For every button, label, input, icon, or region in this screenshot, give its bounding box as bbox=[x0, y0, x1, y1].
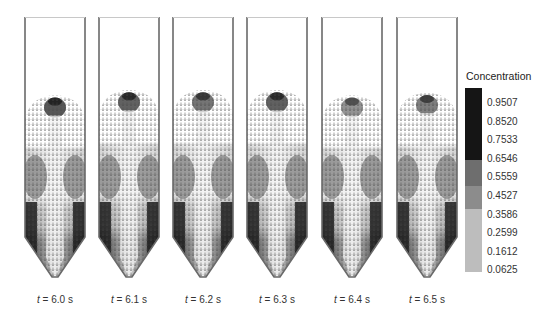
colorbar-tick-label: 0.5559 bbox=[487, 172, 518, 182]
time-caption: t = 6.0 s bbox=[18, 294, 92, 305]
time-caption: t = 6.2 s bbox=[166, 294, 240, 305]
colorbar-tick-label: 0.0625 bbox=[487, 265, 518, 275]
colorbar-tick-label: 0.7533 bbox=[487, 135, 518, 145]
simulation-panel bbox=[245, 17, 309, 279]
colorbar-tick-label: 0.2599 bbox=[487, 228, 518, 238]
time-caption: t = 6.3 s bbox=[240, 294, 314, 305]
colorbar-tick-label: 0.6546 bbox=[487, 154, 518, 164]
simulation-panel bbox=[23, 17, 87, 279]
time-caption: t = 6.4 s bbox=[315, 294, 389, 305]
simulation-panel bbox=[320, 17, 384, 279]
colorbar-tick-label: 0.8520 bbox=[487, 117, 518, 127]
time-value: = 6.0 s bbox=[40, 294, 73, 305]
time-value: = 6.2 s bbox=[188, 294, 221, 305]
colorbar-band bbox=[465, 88, 482, 160]
time-value: = 6.4 s bbox=[337, 294, 370, 305]
time-caption: t = 6.5 s bbox=[390, 294, 464, 305]
colorbar-tick-label: 0.9507 bbox=[487, 98, 518, 108]
colorbar-tick-label: 0.1612 bbox=[487, 247, 518, 257]
time-value: = 6.3 s bbox=[262, 294, 295, 305]
colorbar-tick-label: 0.3586 bbox=[487, 210, 518, 220]
concentration-colorbar bbox=[465, 88, 482, 272]
colorbar-tick-labels: 0.95070.85200.75330.65460.55590.45270.35… bbox=[487, 88, 547, 272]
colorbar-band bbox=[465, 186, 482, 210]
simulation-panel bbox=[97, 17, 161, 279]
colorbar-band bbox=[465, 160, 482, 186]
colorbar-band bbox=[465, 209, 482, 272]
colorbar-tick-label: 0.4527 bbox=[487, 191, 518, 201]
time-value: = 6.5 s bbox=[412, 294, 445, 305]
time-caption: t = 6.1 s bbox=[92, 294, 166, 305]
simulation-panel bbox=[395, 17, 459, 279]
simulation-panel bbox=[171, 17, 235, 279]
colorbar-title: Concentration bbox=[466, 70, 531, 82]
time-value: = 6.1 s bbox=[114, 294, 147, 305]
